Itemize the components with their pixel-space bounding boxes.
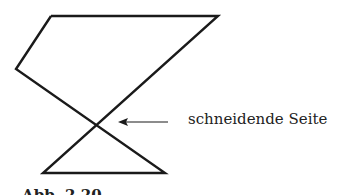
- arrow-icon: [118, 118, 168, 126]
- intersecting-side-label: schneidende Seite: [188, 110, 327, 128]
- figure-caption: Abb. 2.20: [22, 186, 102, 195]
- polygon-figure: [0, 0, 363, 195]
- polygon-outline: [16, 16, 218, 173]
